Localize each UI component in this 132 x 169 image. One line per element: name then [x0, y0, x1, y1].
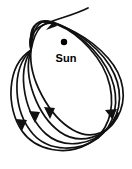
orbit-canvas	[0, 0, 132, 169]
orbit-path	[24, 21, 120, 144]
sun-marker-group	[61, 39, 67, 45]
sun-dot	[61, 39, 67, 45]
orbit-paths-group	[11, 8, 123, 150]
direction-arrow-icon	[29, 111, 40, 123]
orbit-diagram: Sun	[0, 0, 132, 169]
